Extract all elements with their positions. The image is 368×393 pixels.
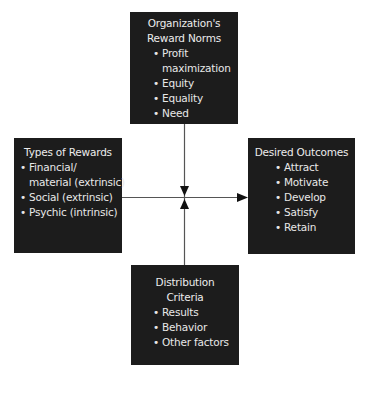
list-item: Other factors	[153, 335, 239, 350]
title-line: Reward Norms	[130, 31, 238, 46]
item-text: Profit	[162, 46, 238, 61]
distribution-criteria-title: Distribution Criteria	[131, 275, 239, 305]
item-text: Behavior	[162, 320, 239, 335]
list-item: Financial/ material (extrinsic)	[20, 160, 122, 190]
item-text: Retain	[284, 220, 355, 235]
list-item: Develop	[275, 190, 355, 205]
list-item: Motivate	[275, 175, 355, 190]
distribution-criteria-list: Results Behavior Other factors	[153, 305, 239, 350]
list-item: Psychic (intrinsic)	[20, 205, 122, 220]
item-text: Financial/	[29, 160, 122, 175]
desired-outcomes-list: Attract Motivate Develop Satisfy Retain	[275, 160, 355, 235]
list-item: Satisfy	[275, 205, 355, 220]
item-text: Results	[162, 305, 239, 320]
reward-norms-box: Organization's Reward Norms Profit maxim…	[130, 12, 238, 124]
types-of-rewards-title: Types of Rewards	[14, 145, 122, 160]
item-text: Psychic (intrinsic)	[29, 205, 122, 220]
item-text: Need	[162, 106, 238, 121]
types-of-rewards-list: Financial/ material (extrinsic) Social (…	[20, 160, 122, 220]
list-item: Retain	[275, 220, 355, 235]
types-of-rewards-box: Types of Rewards Financial/ material (ex…	[14, 138, 122, 253]
reward-norms-list: Profit maximization Equity Equality Need	[153, 46, 238, 121]
item-text: Motivate	[284, 175, 355, 190]
list-item: Behavior	[153, 320, 239, 335]
item-text: Attract	[284, 160, 355, 175]
title-line: Organization's	[130, 16, 238, 31]
list-item: Equity	[153, 76, 238, 91]
desired-outcomes-title: Desired Outcomes	[248, 145, 355, 160]
list-item: Attract	[275, 160, 355, 175]
item-text-continued: material (extrinsic)	[29, 175, 122, 190]
list-item: Equality	[153, 91, 238, 106]
item-text: Develop	[284, 190, 355, 205]
arrow-down-icon	[180, 186, 189, 196]
title-line: Desired Outcomes	[248, 145, 355, 160]
item-text-continued: maximization	[162, 61, 238, 76]
list-item: Social (extrinsic)	[20, 190, 122, 205]
distribution-criteria-box: Distribution Criteria Results Behavior O…	[131, 265, 239, 365]
item-text: Other factors	[162, 335, 239, 350]
title-line: Types of Rewards	[14, 145, 122, 160]
list-item: Need	[153, 106, 238, 121]
list-item: Profit maximization	[153, 46, 238, 76]
item-text: Satisfy	[284, 205, 355, 220]
item-text: Equality	[162, 91, 238, 106]
desired-outcomes-box: Desired Outcomes Attract Motivate Develo…	[248, 138, 355, 254]
reward-norms-title: Organization's Reward Norms	[130, 16, 238, 46]
arrow-up-icon	[180, 199, 189, 209]
item-text: Equity	[162, 76, 238, 91]
title-line: Distribution	[131, 275, 239, 290]
item-text: Social (extrinsic)	[29, 190, 122, 205]
list-item: Results	[153, 305, 239, 320]
title-line: Criteria	[131, 290, 239, 305]
arrow-right-icon	[237, 193, 248, 202]
